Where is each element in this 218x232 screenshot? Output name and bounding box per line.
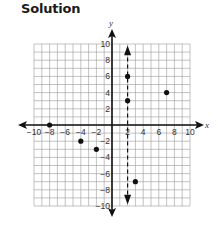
data-point	[94, 147, 99, 152]
data-point	[125, 74, 130, 79]
data-point	[78, 139, 83, 144]
y-tick-label: −10	[96, 201, 111, 211]
y-tick-label: 8	[105, 55, 110, 65]
x-tick-label: −10	[27, 127, 42, 137]
y-tick-label: 2	[105, 104, 110, 114]
data-point	[47, 122, 52, 127]
coordinate-plane: xy−10−8−6−4−2246810108642−2−4−6−8−10	[0, 0, 218, 232]
x-tick-label: −8	[45, 127, 55, 137]
y-tick-label: −8	[100, 185, 110, 195]
y-tick-label: 10	[101, 39, 111, 49]
y-tick-label: 6	[105, 71, 110, 81]
x-axis-label: x	[204, 120, 209, 130]
data-point	[164, 90, 169, 95]
y-tick-label: −2	[100, 136, 110, 146]
dashed-line-down-arrow-icon	[124, 195, 131, 205]
y-tick-label: 4	[105, 88, 110, 98]
y-axis-label: y	[108, 18, 113, 28]
x-tick-label: 4	[141, 127, 146, 137]
data-point	[133, 179, 138, 184]
dashed-line-up-arrow-icon	[124, 46, 131, 56]
x-tick-label: 10	[185, 127, 195, 137]
x-tick-label: −6	[60, 127, 70, 137]
x-tick-label: 8	[172, 127, 177, 137]
x-tick-label: −4	[76, 127, 86, 137]
y-tick-label: −6	[100, 169, 110, 179]
x-tick-label: 6	[156, 127, 161, 137]
y-tick-label: −4	[100, 152, 110, 162]
data-point	[125, 98, 130, 103]
